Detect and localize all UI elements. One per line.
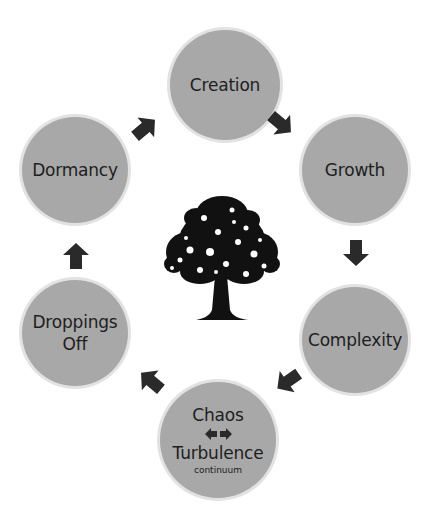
node-growth: Growth: [302, 117, 408, 223]
node-label: Chaos: [192, 404, 243, 426]
arrow-up-right-icon: [124, 107, 166, 149]
node-label: Droppings: [32, 311, 117, 333]
node-label: Creation: [190, 74, 260, 96]
arrow-up-icon: [61, 241, 91, 271]
arrow-down-icon: [341, 238, 371, 268]
node-label-2: Off: [63, 333, 88, 355]
node-droppings-off: Droppings Off: [22, 280, 128, 386]
arrow-up-left-icon: [130, 360, 172, 402]
node-chaos-turbulence: Chaos Turbulence continuum: [160, 382, 276, 498]
node-sublabel: continuum: [194, 465, 242, 476]
node-label: Complexity: [308, 329, 402, 351]
arrow-down-left-icon: [267, 360, 309, 402]
node-label: Dormancy: [32, 159, 118, 181]
node-complexity: Complexity: [302, 287, 408, 393]
node-label-2: Turbulence: [173, 442, 264, 464]
double-arrow-icon: [205, 428, 232, 440]
tree-icon: [160, 192, 284, 322]
node-label: Growth: [325, 159, 385, 181]
cycle-diagram: Creation Growth Complexity Chaos Turbule…: [0, 0, 431, 516]
node-dormancy: Dormancy: [22, 117, 128, 223]
